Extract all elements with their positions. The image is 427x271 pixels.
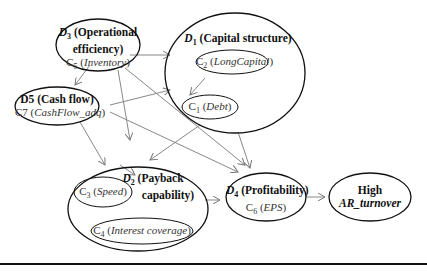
d3-label: D3 (Operational efficiency) C5 (Inventor… — [58, 26, 138, 73]
c3-label: C3 (Speed) — [76, 185, 130, 202]
output-label: High AR_turnover — [329, 184, 411, 210]
c4-label: C4 (Interest coverage) — [92, 224, 192, 241]
d4-label: D4 (Profitability) C6 (EPS) — [226, 184, 306, 218]
d1-label: D1 (Capital structure) — [178, 32, 298, 49]
d5-label: D5 (Cash flow) C7 (CashFlow_adq) — [15, 93, 99, 119]
c1-label: C1 (Debt) — [182, 100, 238, 117]
c2-label: C2 (LongCapital) — [196, 55, 268, 72]
